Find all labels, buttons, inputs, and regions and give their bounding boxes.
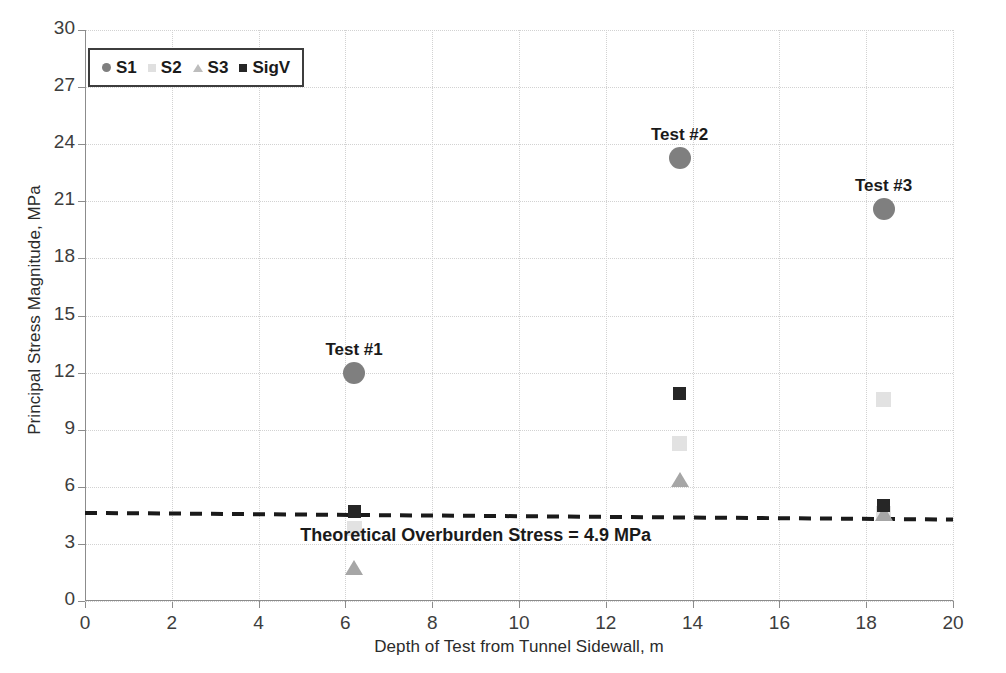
x-axis-tick-label: 20 [933,612,973,634]
y-axis-tick-label: 18 [29,245,75,267]
gridline-vertical [953,30,954,601]
y-axis-tick-label: 6 [29,474,75,496]
data-point-s3 [671,472,689,487]
x-axis-tick-mark [345,601,346,608]
y-axis-tick-label: 30 [29,17,75,39]
x-axis-tick-mark [866,601,867,608]
y-axis-tick-label: 15 [29,303,75,325]
legend-item-sigv[interactable]: SigV [239,59,290,76]
x-axis-tick-label: 14 [673,612,713,634]
y-axis-tick-label: 27 [29,74,75,96]
y-axis-tick-mark [78,144,85,145]
x-axis-tick-label: 16 [759,612,799,634]
x-axis-tick-label: 12 [586,612,626,634]
y-axis-tick-mark [78,87,85,88]
x-axis-tick-mark [172,601,173,608]
legend-item-s2[interactable]: S2 [148,59,182,76]
x-axis-tick-label: 8 [412,612,452,634]
test-label: Test #1 [325,340,382,360]
y-axis-tick-mark [78,430,85,431]
test-label: Test #3 [855,176,912,196]
x-axis-tick-mark [259,601,260,608]
legend-swatch-square-icon [239,64,247,72]
legend-label: S3 [208,59,229,76]
x-axis-tick-mark [85,601,86,608]
legend-label: S1 [116,59,137,76]
legend-label: SigV [252,59,290,76]
legend-item-s3[interactable]: S3 [193,59,229,76]
chart-legend[interactable]: S1S2S3SigV [88,48,304,87]
y-axis-tick-label: 3 [29,531,75,553]
y-axis-tick-mark [78,373,85,374]
y-axis-tick-label: 12 [29,360,75,382]
legend-label: S2 [161,59,182,76]
overburden-annotation-label: Theoretical Overburden Stress = 4.9 MPa [300,525,651,546]
data-point-s1 [669,147,691,169]
data-point-s2 [876,392,891,407]
x-axis-title: Depth of Test from Tunnel Sidewall, m [85,637,953,657]
overburden-reference-line [85,30,953,601]
x-axis-tick-label: 10 [499,612,539,634]
gridline-horizontal [85,601,953,602]
y-axis-tick-label: 24 [29,131,75,153]
x-axis-tick-label: 2 [152,612,192,634]
x-axis-tick-mark [519,601,520,608]
data-point-s1 [873,198,895,220]
x-axis-tick-mark [606,601,607,608]
y-axis-tick-mark [78,201,85,202]
y-axis-tick-label: 21 [29,188,75,210]
plot-area: Test #1Test #2Test #3 Theoretical Overbu… [85,30,953,601]
y-axis-tick-mark [78,30,85,31]
test-label: Test #2 [651,125,708,145]
scatter-chart: Principal Stress Magnitude, MPa Depth of… [0,0,1006,673]
data-point-s2 [672,436,687,451]
legend-item-s1[interactable]: S1 [102,59,137,76]
x-axis-tick-mark [953,601,954,608]
data-point-sigv [877,499,890,512]
data-point-s3 [345,560,363,575]
y-axis-tick-mark [78,258,85,259]
data-point-sigv [673,387,686,400]
y-axis-tick-mark [78,601,85,602]
y-axis-tick-mark [78,316,85,317]
x-axis-tick-label: 18 [846,612,886,634]
x-axis-tick-mark [693,601,694,608]
legend-swatch-circle-icon [102,63,111,72]
x-axis-tick-mark [432,601,433,608]
y-axis-tick-mark [78,487,85,488]
y-axis-tick-label: 9 [29,417,75,439]
y-axis-tick-mark [78,544,85,545]
legend-swatch-triangle-icon [193,64,203,72]
x-axis-tick-label: 4 [239,612,279,634]
data-point-s1 [343,362,365,384]
x-axis-tick-label: 0 [65,612,105,634]
x-axis-tick-mark [779,601,780,608]
x-axis-tick-label: 6 [325,612,365,634]
legend-swatch-square-icon [148,64,156,72]
y-axis-tick-label: 0 [29,588,75,610]
data-point-sigv [348,505,361,518]
